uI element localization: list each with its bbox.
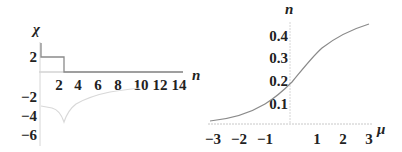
svg-text:2: 2 [339, 131, 347, 147]
svg-text:−4: −4 [21, 108, 38, 124]
svg-text:2: 2 [55, 77, 63, 93]
svg-text:0.3: 0.3 [269, 50, 288, 66]
svg-text:4: 4 [74, 77, 82, 93]
svg-text:0.2: 0.2 [269, 73, 288, 89]
x-tick-labels: −3 −2 −1 1 2 3 [205, 131, 373, 147]
svg-text:1: 1 [313, 131, 321, 147]
svg-text:0.1: 0.1 [269, 96, 288, 112]
svg-text:2: 2 [30, 49, 38, 65]
svg-text:14: 14 [172, 77, 188, 93]
series-chi-step [41, 43, 183, 72]
svg-text:−2: −2 [231, 131, 247, 147]
svg-text:−6: −6 [21, 127, 38, 143]
series-chi-light [41, 88, 140, 122]
chart-chi: χ n 2 4 6 8 10 12 14 2 −2 −4 −6 [21, 21, 200, 146]
svg-text:3: 3 [365, 131, 373, 147]
figure: χ n 2 4 6 8 10 12 14 2 −2 −4 −6 n μ [0, 0, 402, 152]
svg-text:10: 10 [134, 77, 149, 93]
svg-text:−1: −1 [257, 131, 273, 147]
x-axis-label: μ [376, 121, 385, 137]
y-tick-labels: 2 −2 −4 −6 [21, 49, 38, 143]
svg-text:−3: −3 [205, 131, 221, 147]
svg-text:6: 6 [94, 77, 102, 93]
y-axis-label: n [285, 1, 293, 17]
svg-text:12: 12 [153, 77, 168, 93]
svg-text:−2: −2 [21, 89, 37, 105]
chart-n-mu: n μ −3 −2 −1 1 2 3 0.1 0.2 0.3 0.4 [205, 1, 385, 147]
svg-text:0.4: 0.4 [269, 28, 288, 44]
x-axis-label: n [192, 67, 200, 83]
y-axis-label: χ [31, 21, 41, 37]
